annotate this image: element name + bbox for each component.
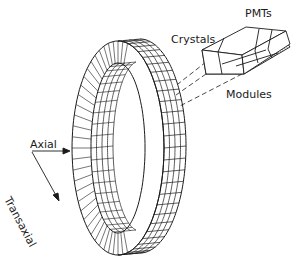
label-modules: Modules (226, 89, 272, 100)
axial-arrowhead (63, 148, 70, 154)
pet-ring-diagram (0, 0, 306, 258)
label-axial: Axial (30, 139, 57, 150)
axis-arrows (32, 148, 70, 201)
transaxial-arrowhead (53, 193, 59, 201)
label-pmts: PMTs (245, 8, 272, 19)
detector-ring (72, 39, 186, 255)
label-crystals: Crystals (171, 34, 215, 45)
transaxial-arrow (32, 152, 58, 199)
